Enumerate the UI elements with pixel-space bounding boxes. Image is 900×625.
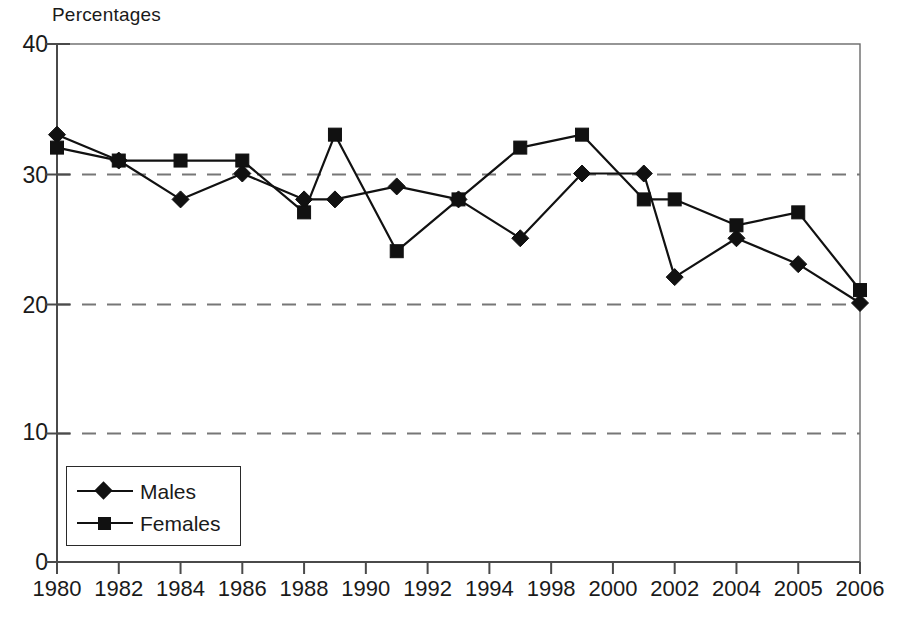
data-point-females-1996 <box>514 141 527 154</box>
x-tick-1994: 1994 <box>465 578 514 600</box>
data-point-females-2004 <box>730 219 743 232</box>
data-point-females-2001 <box>637 193 650 206</box>
data-point-females-1988 <box>298 206 311 219</box>
data-point-males-1980 <box>49 126 66 143</box>
x-tick-2006: 2006 <box>836 578 885 600</box>
x-tick-2005: 2005 <box>774 578 823 600</box>
data-point-females-1986 <box>236 154 249 167</box>
series-layer <box>49 126 869 311</box>
x-tick-1986: 1986 <box>218 578 267 600</box>
data-point-females-2006 <box>854 284 867 297</box>
x-tick-2002: 2002 <box>650 578 699 600</box>
x-tick-1980: 1980 <box>33 578 82 600</box>
legend-label-females: Females <box>140 513 221 534</box>
x-tick-2004: 2004 <box>712 578 761 600</box>
x-tick-1984: 1984 <box>156 578 205 600</box>
data-point-males-2005 <box>790 256 807 273</box>
data-point-females-1989 <box>328 128 341 141</box>
data-point-females-1980 <box>51 141 64 154</box>
x-tick-1990: 1990 <box>341 578 390 600</box>
data-point-females-2005 <box>792 206 805 219</box>
data-point-females-2002 <box>668 193 681 206</box>
legend-item-males: Males <box>77 476 196 506</box>
data-point-females-1993 <box>452 193 465 206</box>
chart-container: Percentages 40 30 20 10 0 198019821984 <box>0 0 900 625</box>
data-point-males-2002 <box>666 269 683 286</box>
x-tick-1982: 1982 <box>94 578 143 600</box>
legend-item-females: Females <box>77 508 221 538</box>
legend-square-marker-icon <box>77 513 133 533</box>
x-tick-1998: 1998 <box>527 578 576 600</box>
legend-diamond-marker-icon <box>77 481 133 501</box>
data-point-males-1989 <box>326 191 343 208</box>
x-tick-1988: 1988 <box>280 578 329 600</box>
data-point-females-1999 <box>576 128 589 141</box>
x-axis-ticks <box>57 562 860 574</box>
x-tick-2000: 2000 <box>588 578 637 600</box>
data-point-females-1982 <box>112 154 125 167</box>
data-point-males-2001 <box>635 165 652 182</box>
data-point-males-1984 <box>172 191 189 208</box>
data-point-males-1991 <box>388 178 405 195</box>
x-tick-1992: 1992 <box>403 578 452 600</box>
legend-label-males: Males <box>140 481 196 502</box>
legend: Males Females <box>66 466 241 546</box>
data-point-females-1984 <box>174 154 187 167</box>
data-point-females-1991 <box>390 245 403 258</box>
